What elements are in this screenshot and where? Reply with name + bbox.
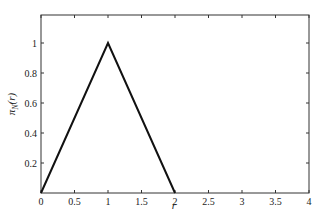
y-axis-label: πN(r) (5, 92, 20, 115)
series-line (41, 43, 175, 193)
y-tick-label: 1 (32, 38, 37, 49)
chart: 00.511.522.533.540.20.40.60.81 r πN(r) (0, 0, 322, 221)
x-tick-label: 4 (307, 196, 312, 207)
y-tick-label: 0.8 (25, 68, 38, 79)
x-tick-label: 1 (106, 196, 111, 207)
x-tick-label: 0 (39, 196, 44, 207)
y-tick-label: 0.2 (25, 158, 38, 169)
x-tick-label: 1.5 (135, 196, 148, 207)
x-tick-label: 3 (240, 196, 245, 207)
x-tick-label: 0.5 (68, 196, 81, 207)
y-tick-label: 0.6 (25, 98, 38, 109)
data-series (41, 43, 175, 193)
x-axis-label: r (172, 199, 177, 211)
y-tick-label: 0.4 (25, 128, 38, 139)
x-tick-label: 3.5 (269, 196, 282, 207)
svg-text:πN(r): πN(r) (5, 92, 20, 115)
x-tick-label: 2.5 (202, 196, 215, 207)
